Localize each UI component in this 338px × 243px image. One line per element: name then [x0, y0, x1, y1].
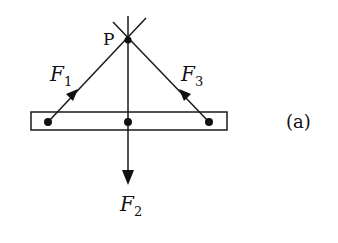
force-diagram: P F1 F3 F2 (a) — [0, 0, 338, 243]
panel-label: (a) — [286, 111, 311, 132]
f2-arrowhead-icon — [122, 170, 134, 185]
f1-arrowhead-icon — [66, 89, 78, 101]
f1-label: F1 — [49, 62, 72, 89]
f2-label: F2 — [119, 192, 142, 219]
f3-arrowhead-icon — [179, 89, 191, 101]
point-p-dot — [125, 37, 132, 44]
left-attach-dot — [44, 118, 52, 126]
f3-label: F3 — [180, 62, 203, 89]
point-p-label: P — [103, 29, 114, 49]
center-attach-dot — [124, 118, 132, 126]
right-attach-dot — [205, 118, 213, 126]
